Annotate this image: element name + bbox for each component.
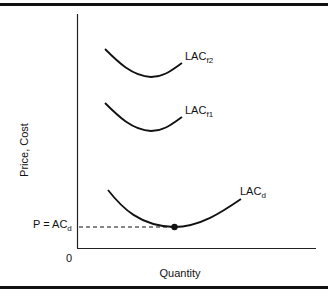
lac-diagram: Price, Cost 0 Quantity LACf2 LACf1 LACd …: [0, 0, 328, 298]
price-label: P = ACd: [33, 218, 72, 233]
lac-f1-label: LACf1: [185, 104, 214, 119]
origin-label: 0: [66, 252, 72, 264]
lac-d-curve: [108, 190, 241, 227]
equilibrium-point: [171, 224, 177, 230]
x-axis-label: Quantity: [160, 267, 201, 279]
bottom-border: [0, 286, 328, 289]
lac-f1-curve: [105, 103, 182, 131]
lac-f2-curve: [105, 49, 182, 77]
lac-d-label: LACd: [240, 185, 266, 200]
y-axis-label: Price, Cost: [18, 123, 30, 177]
lac-f2-label: LACf2: [185, 50, 214, 65]
top-border: [0, 3, 328, 6]
